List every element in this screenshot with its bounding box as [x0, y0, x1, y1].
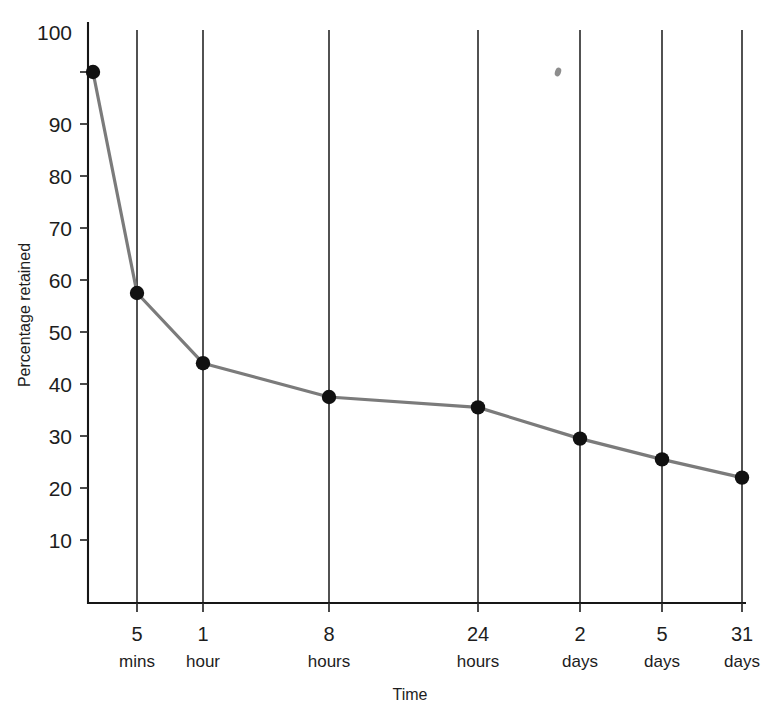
data-series-line	[93, 72, 742, 478]
y-label-100: 100	[37, 21, 72, 44]
y-label-90: 90	[49, 113, 72, 136]
y-label-50: 50	[49, 321, 72, 344]
x-tick-marks	[137, 603, 742, 612]
x-label-num-1: 5	[131, 623, 142, 645]
x-label-unit-2: hour	[186, 652, 220, 671]
y-label-70: 70	[49, 217, 72, 240]
x-label-num-2: 1	[197, 623, 208, 645]
y-tick-marks	[80, 72, 88, 540]
y-label-80: 80	[49, 165, 72, 188]
forgetting-curve-chart: 10 20 30 40 50 60 70 80 90 100 Percentag…	[0, 0, 774, 710]
x-label-num-4: 24	[467, 623, 489, 645]
y-label-20: 20	[49, 477, 72, 500]
x-label-unit-5: days	[562, 652, 598, 671]
y-label-30: 30	[49, 425, 72, 448]
x-label-unit-1: mins	[119, 652, 155, 671]
data-point	[573, 431, 587, 445]
data-point	[735, 470, 749, 484]
y-tick-labels: 10 20 30 40 50 60 70 80 90 100	[37, 21, 72, 552]
data-series-markers	[86, 65, 749, 485]
scan-speck	[554, 67, 563, 78]
x-label-unit-7: days	[724, 652, 760, 671]
y-label-40: 40	[49, 373, 72, 396]
x-label-num-3: 8	[323, 623, 334, 645]
x-axis-title: Time	[393, 686, 428, 703]
data-point	[655, 452, 669, 466]
x-label-unit-6: days	[644, 652, 680, 671]
x-label-unit-4: hours	[457, 652, 500, 671]
y-label-10: 10	[49, 529, 72, 552]
data-point	[471, 400, 485, 414]
data-point	[130, 286, 144, 300]
gridlines-vertical	[137, 30, 742, 603]
x-label-num-6: 5	[656, 623, 667, 645]
data-point	[322, 390, 336, 404]
axis-frame	[88, 22, 746, 603]
x-label-num-7: 31	[731, 623, 753, 645]
x-label-num-5: 2	[574, 623, 585, 645]
axes	[88, 22, 746, 603]
x-tick-labels: 5 mins 1 hour 8 hours 24 hours 2 days 5 …	[119, 623, 760, 671]
chart-canvas: 10 20 30 40 50 60 70 80 90 100 Percentag…	[0, 0, 774, 710]
data-point	[196, 356, 210, 370]
y-axis-title: Percentage retained	[16, 243, 33, 387]
y-label-60: 60	[49, 269, 72, 292]
data-point	[86, 65, 100, 79]
x-label-unit-3: hours	[308, 652, 351, 671]
